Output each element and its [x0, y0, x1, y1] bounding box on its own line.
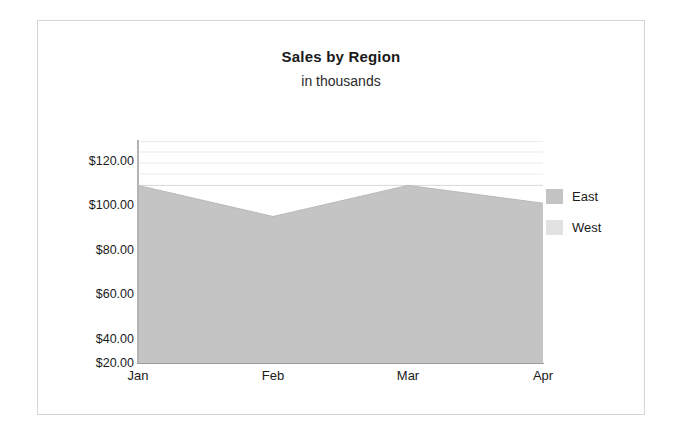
y-tick-label-100: $100.00 — [42, 199, 134, 212]
y-tick-label-40: $40.00 — [42, 333, 134, 346]
chart-screenshot: Sales by Region in thousands $120.00 $10… — [0, 0, 678, 444]
legend-item-east: East — [546, 181, 642, 212]
x-tick-label-apr: Apr — [508, 369, 578, 383]
x-tick-label-feb: Feb — [238, 369, 308, 383]
x-tick-label-jan: Jan — [103, 369, 173, 383]
x-axis-line — [137, 363, 544, 364]
legend-label-west: West — [572, 220, 601, 235]
chart-frame: Sales by Region in thousands $120.00 $10… — [37, 20, 645, 415]
legend-swatch-east-icon — [546, 189, 563, 204]
y-tick-label-80: $80.00 — [42, 244, 134, 257]
area-chart-svg — [138, 141, 543, 363]
x-tick-label-mar: Mar — [373, 369, 443, 383]
legend-label-east: East — [572, 189, 598, 204]
x-axis-tick-labels: Jan Feb Mar Apr — [138, 369, 543, 391]
y-axis-line — [137, 140, 139, 364]
y-tick-label-60: $60.00 — [42, 288, 134, 301]
y-tick-label-120: $120.00 — [42, 155, 134, 168]
plot-area — [138, 141, 543, 363]
chart-legend: East West — [546, 181, 642, 243]
legend-item-west: West — [546, 212, 642, 243]
legend-swatch-west-icon — [546, 220, 563, 235]
y-axis-tick-labels: $120.00 $100.00 $80.00 $60.00 $40.00 $20… — [38, 21, 134, 416]
y-tick-label-20: $20.00 — [42, 357, 134, 370]
area-series-east — [138, 185, 543, 363]
